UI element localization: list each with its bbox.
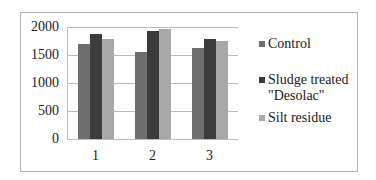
legend-swatch-icon [259,77,265,83]
x-tick-label: 1 [86,149,106,163]
plot-area [67,27,238,139]
bar [192,48,204,139]
legend-swatch-icon [259,41,265,47]
y-tick-label: 1000 [9,76,59,90]
legend-item-silt: Silt residue [259,110,331,126]
legend-label: Control [268,36,311,52]
legend-swatch-icon [259,115,265,121]
bar [90,34,102,139]
bar [78,44,90,139]
bar [216,41,228,139]
bar [147,31,159,139]
bar [204,39,216,139]
legend-item-sludge: Sludge treated "Desolac" [259,72,348,104]
bar [135,52,147,139]
gridline [67,27,238,28]
y-tick-label: 1500 [9,48,59,62]
legend-label-line1: Sludge treated [268,72,348,87]
legend-label: Sludge treated "Desolac" [268,72,348,104]
x-tick-label: 3 [200,149,220,163]
legend-label-line2: "Desolac" [268,88,325,103]
y-tick-label: 0 [9,132,59,146]
y-tick-label: 500 [9,104,59,118]
legend-item-control: Control [259,36,311,52]
x-tick-label: 2 [143,149,163,163]
bar [102,39,114,139]
gridline [67,139,238,140]
bar [159,29,171,139]
y-tick-label: 2000 [9,20,59,34]
legend-label: Silt residue [268,110,331,126]
